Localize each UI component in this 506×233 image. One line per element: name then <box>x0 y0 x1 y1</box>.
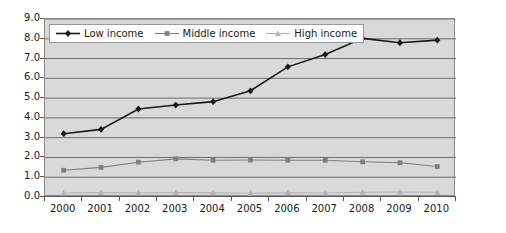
data-point-marker <box>285 158 290 163</box>
legend-square-icon <box>155 29 179 38</box>
data-point-marker <box>248 158 253 163</box>
y-tick-label: 7.0 <box>2 53 40 63</box>
data-point-marker <box>136 160 141 165</box>
y-tick-mark <box>40 176 44 177</box>
data-point-marker <box>398 160 403 165</box>
legend-entry-middle-income[interactable]: Middle income <box>155 29 256 39</box>
series-middle-income <box>61 156 439 172</box>
data-point-marker <box>135 106 141 113</box>
y-tick-label: 4.0 <box>2 112 40 122</box>
y-tick-mark <box>40 18 44 19</box>
plot-area <box>44 18 455 196</box>
data-point-marker <box>435 164 440 169</box>
data-point-marker <box>173 102 179 109</box>
data-point-marker <box>322 51 328 58</box>
x-tick-mark <box>81 196 82 201</box>
y-axis: 0.01.02.03.04.05.06.07.08.09.0 <box>0 0 40 233</box>
x-axis: 2000200120022003200420052006200720082009… <box>44 203 455 223</box>
data-point-marker <box>211 158 216 163</box>
data-point-marker <box>360 159 365 164</box>
y-tick-label: 9.0 <box>2 13 40 23</box>
y-tick-label: 1.0 <box>2 171 40 181</box>
line-chart: 0.01.02.03.04.05.06.07.08.09.0 200020012… <box>0 0 506 233</box>
data-point-marker <box>210 98 216 105</box>
legend-diamond-icon <box>56 29 80 38</box>
data-point-marker <box>247 87 253 94</box>
y-tick-mark <box>40 97 44 98</box>
y-tick-label: 5.0 <box>2 92 40 102</box>
series-low-income <box>61 35 441 137</box>
x-tick-label: 2002 <box>117 203 157 215</box>
data-point-marker <box>434 37 440 44</box>
series-line <box>64 38 438 133</box>
y-tick-mark <box>40 156 44 157</box>
x-tick-mark <box>119 196 120 201</box>
y-tick-label: 6.0 <box>2 72 40 82</box>
x-tick-mark <box>156 196 157 201</box>
y-tick-mark <box>40 117 44 118</box>
x-tick-mark <box>44 196 45 201</box>
x-tick-label: 2008 <box>342 203 382 215</box>
y-tick-label: 3.0 <box>2 132 40 142</box>
series-high-income <box>61 189 441 196</box>
data-point-marker <box>397 39 403 46</box>
y-tick-label: 2.0 <box>2 151 40 161</box>
y-tick-mark <box>40 58 44 59</box>
x-tick-label: 2004 <box>192 203 232 215</box>
x-tick-label: 2007 <box>304 203 344 215</box>
chart-legend: Low incomeMiddle incomeHigh income <box>49 24 364 43</box>
data-point-marker <box>285 63 291 70</box>
legend-entry-high-income[interactable]: High income <box>266 29 357 39</box>
x-tick-mark <box>193 196 194 201</box>
x-tick-label: 2000 <box>43 203 83 215</box>
data-point-marker <box>65 30 71 37</box>
x-tick-mark <box>380 196 381 201</box>
x-tick-label: 2005 <box>230 203 270 215</box>
y-tick-label: 8.0 <box>2 33 40 43</box>
x-tick-label: 2003 <box>155 203 195 215</box>
x-tick-mark <box>455 196 456 201</box>
x-tick-mark <box>268 196 269 201</box>
legend-label: Middle income <box>183 29 256 39</box>
data-point-marker <box>173 156 178 161</box>
x-tick-mark <box>418 196 419 201</box>
data-point-marker <box>99 165 104 170</box>
x-tick-label: 2009 <box>379 203 419 215</box>
x-axis-line <box>44 196 456 197</box>
legend-entry-low-income[interactable]: Low income <box>56 29 144 39</box>
y-tick-label: 0.0 <box>2 191 40 201</box>
x-tick-label: 2010 <box>416 203 456 215</box>
y-tick-mark <box>40 137 44 138</box>
legend-label: Low income <box>84 29 144 39</box>
data-point-marker <box>61 130 67 137</box>
data-point-marker <box>98 126 104 133</box>
x-tick-label: 2006 <box>267 203 307 215</box>
data-point-marker <box>323 158 328 163</box>
x-tick-mark <box>343 196 344 201</box>
data-point-marker <box>61 168 66 173</box>
legend-triangle-icon <box>266 29 290 38</box>
x-tick-label: 2001 <box>80 203 120 215</box>
plot-svg <box>45 19 456 197</box>
x-tick-mark <box>231 196 232 201</box>
data-point-marker <box>164 31 169 36</box>
legend-label: High income <box>294 29 357 39</box>
y-tick-mark <box>40 77 44 78</box>
y-tick-mark <box>40 38 44 39</box>
x-tick-mark <box>306 196 307 201</box>
